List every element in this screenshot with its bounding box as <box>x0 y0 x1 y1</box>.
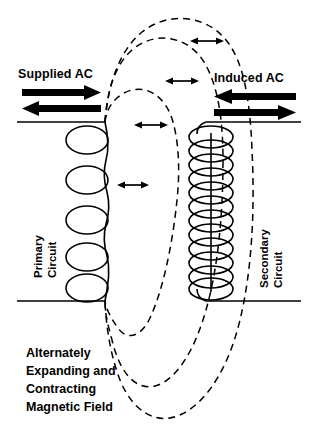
arrow-right-icon <box>22 85 101 100</box>
primary-circuit-label: Primary Circuit <box>32 235 58 278</box>
caption-line-1: Alternately <box>26 346 91 360</box>
arrow-left-icon <box>22 101 101 116</box>
primary-coil-loop <box>66 126 108 154</box>
double-headed-arrow-icon <box>134 122 168 129</box>
supplied-ac-label: Supplied AC <box>18 67 93 81</box>
double-headed-arrow-icon <box>190 38 224 45</box>
double-headed-arrow-icon <box>117 182 149 189</box>
caption-line-4: Magnetic Field <box>26 400 113 414</box>
primary-circuit-group <box>17 122 109 302</box>
primary-coil-loop <box>66 274 108 302</box>
secondary-circuit-label-line1: Secondary <box>258 229 270 288</box>
arrow-left-icon <box>214 89 296 104</box>
transformer-diagram: Supplied AC Induced AC Primary Circuit S… <box>0 0 309 430</box>
double-headed-arrow-icon <box>165 78 199 85</box>
primary-coil-loop <box>66 206 108 234</box>
diagram-canvas: Supplied AC Induced AC Primary Circuit S… <box>0 0 309 430</box>
field-line-middle <box>105 38 223 387</box>
secondary-circuit-label-line2: Circuit <box>272 251 284 288</box>
primary-circuit-label-line2: Circuit <box>46 241 58 278</box>
primary-coil-loop <box>66 166 108 194</box>
caption-line-3: Contracting <box>26 382 96 396</box>
primary-coil-loop <box>66 243 108 271</box>
caption-line-2: Expanding and <box>26 364 116 378</box>
current-direction-arrows <box>22 85 296 120</box>
arrow-right-icon <box>214 105 296 120</box>
primary-circuit-label-line1: Primary <box>32 235 44 278</box>
secondary-circuit-label: Secondary Circuit <box>258 229 284 288</box>
expansion-markers <box>117 38 224 189</box>
magnetic-field-caption: Alternately Expanding and Contracting Ma… <box>26 346 116 414</box>
induced-ac-label: Induced AC <box>214 71 284 85</box>
secondary-circuit-group <box>189 122 301 301</box>
